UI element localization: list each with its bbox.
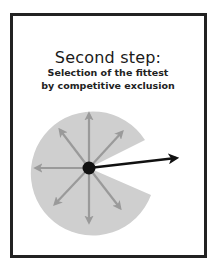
origin-dot	[83, 162, 96, 175]
competitive-exclusion-diagram	[0, 0, 216, 264]
